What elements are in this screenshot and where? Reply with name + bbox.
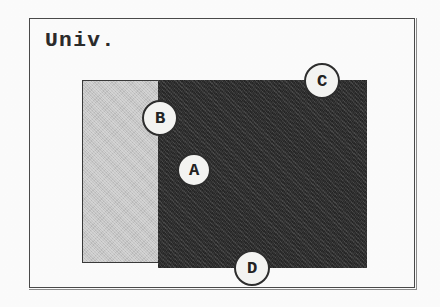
callout-marker-b[interactable]: B <box>142 100 178 136</box>
callout-marker-a[interactable]: A <box>177 153 211 187</box>
callout-marker-c[interactable]: C <box>304 63 340 99</box>
figure-page: Univ. A B C D <box>0 0 440 307</box>
venn-plate <box>82 80 367 268</box>
figure-title: Univ. <box>45 29 116 52</box>
callout-marker-d[interactable]: D <box>234 250 270 286</box>
